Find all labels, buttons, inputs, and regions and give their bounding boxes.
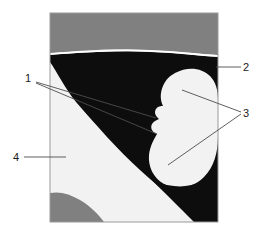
callout-label-4: 4 [13, 151, 19, 163]
cross-section-diagram: 1 2 3 4 [0, 0, 265, 244]
callout-label-1: 1 [25, 72, 31, 84]
callout-label-3: 3 [243, 107, 249, 119]
region-upper-gray-band [50, 13, 218, 55]
callout-label-2: 2 [243, 61, 249, 73]
figure-root: 1 2 3 4 [0, 0, 265, 244]
panel-content [50, 13, 218, 222]
